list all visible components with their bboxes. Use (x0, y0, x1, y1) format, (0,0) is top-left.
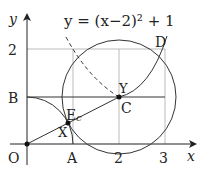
point-Y-label: Y (118, 81, 128, 96)
y-tick-2: 2 (8, 42, 17, 58)
x-tick-3: 3 (159, 150, 168, 166)
math-diagram: y x y = (x−2)² + 1 2 B O A 2 3 D Y C E c… (0, 0, 205, 171)
origin-label: O (8, 150, 19, 166)
x-tick-2: 2 (114, 150, 123, 166)
point-A-label: A (66, 150, 78, 166)
axes (10, 18, 195, 165)
point-D-label: D (155, 34, 166, 50)
equation-label: y = (x−2)² + 1 (63, 12, 175, 30)
point-E-label: E (66, 107, 76, 123)
point-O (25, 142, 30, 147)
point-B-label: B (8, 90, 18, 106)
point-C-label: C (121, 100, 132, 116)
point-X-label: X (58, 125, 68, 140)
x-axis-label: x (187, 148, 195, 164)
arc-c-label: c (76, 112, 82, 123)
y-axis-label: y (8, 11, 18, 27)
